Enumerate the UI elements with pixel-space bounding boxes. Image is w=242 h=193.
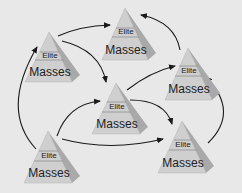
elite-label: Elite xyxy=(109,102,125,111)
diagram-canvas: Elite Masses Elite Masses Elite Masses E… xyxy=(0,0,242,193)
elite-label: Elite xyxy=(181,66,197,75)
circulation-of-elites-diagram: Elite Masses Elite Masses Elite Masses E… xyxy=(0,0,242,193)
arrow-a-to-b xyxy=(58,25,110,36)
pyramid-f: Elite Masses xyxy=(158,121,214,173)
elite-label: Elite xyxy=(42,51,58,60)
masses-label: Masses xyxy=(105,43,146,57)
masses-label: Masses xyxy=(29,65,70,79)
pyramid-e: Elite Masses xyxy=(24,131,80,183)
elite-label: Elite xyxy=(118,27,134,36)
pyramid-d: Elite Masses xyxy=(92,83,148,134)
elite-label: Elite xyxy=(175,140,191,149)
masses-label: Masses xyxy=(162,156,203,170)
pyramid-c: Elite Masses xyxy=(165,48,220,100)
pyramid-b: Elite Masses xyxy=(102,8,156,60)
pyramid-a: Elite Masses xyxy=(25,32,80,82)
masses-label: Masses xyxy=(168,82,209,96)
arrow-e-to-f xyxy=(62,139,163,146)
masses-label: Masses xyxy=(96,117,137,131)
masses-label: Masses xyxy=(28,166,69,180)
elite-label: Elite xyxy=(41,151,57,160)
